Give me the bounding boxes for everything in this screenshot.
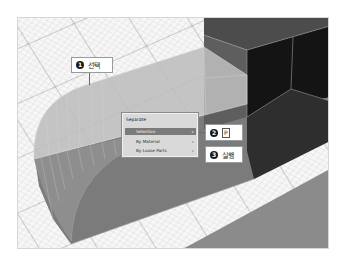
menu-item-label: By Loose Parts — [136, 148, 167, 153]
shortcut-indicator-icon: ▸ — [192, 128, 194, 135]
menu-item-by-loose-parts[interactable]: By Loose Parts ▸ — [125, 147, 196, 154]
separate-context-menu: Separate Selection ▸ By Material ▸ By Lo… — [122, 113, 198, 157]
menu-item-selection[interactable]: Selection ▸ — [125, 128, 196, 135]
step-number-1-icon: 1 — [76, 61, 84, 69]
menu-item-label: Selection — [136, 129, 155, 134]
callout-select: 1 선택 — [71, 57, 113, 73]
callout-shortcut-key: 2 P — [205, 124, 243, 141]
callout-label: 선택 — [88, 60, 100, 70]
menu-item-by-material[interactable]: By Material ▸ — [125, 138, 196, 145]
menu-title: Separate — [126, 117, 146, 122]
step-number-2-icon: 2 — [210, 129, 218, 137]
shortcut-indicator-icon: ▸ — [192, 138, 194, 145]
step-number-3-icon: 3 — [210, 151, 218, 159]
shortcut-indicator-icon: ▸ — [192, 147, 194, 154]
callout-1-leader — [89, 73, 90, 85]
callout-label: 실행 — [222, 150, 234, 160]
menu-item-label: By Material — [136, 139, 160, 144]
callout-execute: 3 실행 — [205, 146, 243, 163]
keyboard-key-p: P — [222, 128, 230, 138]
